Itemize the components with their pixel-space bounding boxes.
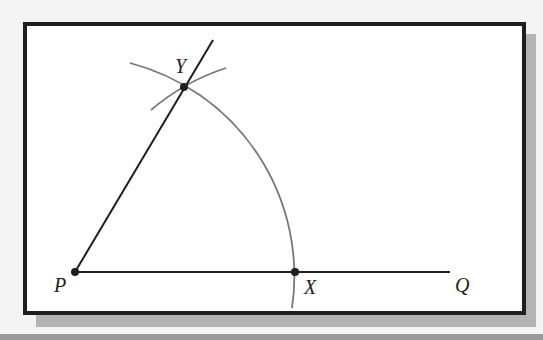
label-p: P bbox=[53, 274, 66, 296]
label-x: X bbox=[303, 276, 317, 298]
point-p bbox=[71, 268, 79, 276]
point-y bbox=[180, 83, 188, 91]
label-y: Y bbox=[175, 55, 188, 77]
construction-diagram: P X Y Q bbox=[0, 0, 543, 340]
ray-py bbox=[75, 40, 213, 272]
label-q: Q bbox=[455, 274, 470, 296]
point-x bbox=[291, 268, 299, 276]
